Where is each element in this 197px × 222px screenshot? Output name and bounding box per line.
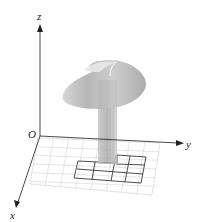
y-axis-label: y <box>185 138 191 150</box>
x-axis-arrow-icon <box>14 200 20 208</box>
x-axis <box>17 136 40 205</box>
surface-diagram: z y x O <box>0 0 197 222</box>
xy-plane-grid <box>30 138 160 195</box>
x-axis-label: x <box>9 209 15 221</box>
z-axis-label: z <box>36 10 42 22</box>
surface-cap <box>63 60 146 109</box>
origin-label: O <box>28 128 36 140</box>
axes <box>17 29 178 205</box>
z-axis-arrow-icon <box>37 24 43 32</box>
y-axis-arrow-icon <box>176 140 184 146</box>
